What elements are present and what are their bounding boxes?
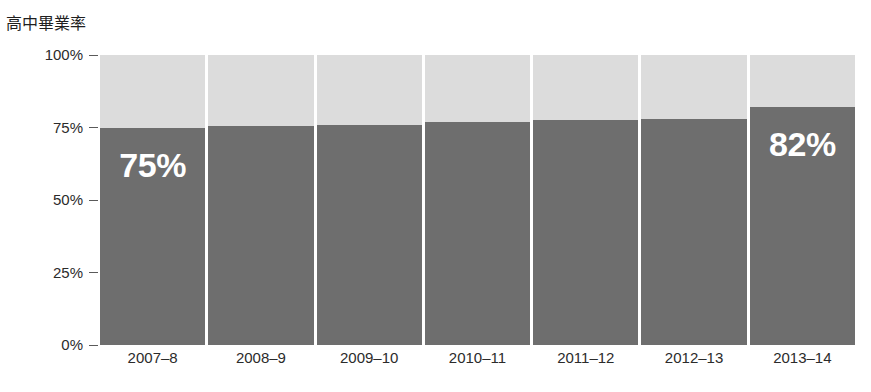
x-axis-tick-label: 2012–13 <box>641 349 746 371</box>
y-axis-tick: 75% <box>0 119 98 137</box>
bar-segment-remainder <box>641 55 746 119</box>
y-axis-tick-mark <box>89 272 98 273</box>
y-axis-tick-label: 25% <box>53 264 83 281</box>
bar-segment-graduated <box>533 120 638 345</box>
bar-segment-remainder <box>425 55 530 122</box>
bar-segment-remainder <box>750 55 855 107</box>
bar-column[interactable] <box>425 55 530 345</box>
bar-segment-remainder <box>208 55 313 126</box>
bar-segment-graduated <box>208 126 313 345</box>
bar-column[interactable] <box>641 55 746 345</box>
y-axis-tick: 0% <box>0 336 98 354</box>
bar-column[interactable]: 75% <box>100 55 205 345</box>
y-axis-tick-label: 0% <box>61 336 83 353</box>
y-axis-tick-label: 50% <box>53 191 83 208</box>
y-axis-title: 高中畢業率 <box>6 14 86 34</box>
bar-column[interactable] <box>208 55 313 345</box>
bar-column[interactable] <box>533 55 638 345</box>
cropped-text-remnant: · · · · · · · · · · <box>90 0 750 5</box>
x-axis-tick-label: 2011–12 <box>533 349 638 371</box>
chart-figure: · · · · · · · · · · 高中畢業率 75%82% 0%25%50… <box>0 0 871 392</box>
y-axis-tick: 50% <box>0 191 98 209</box>
y-axis-tick-mark <box>89 55 98 56</box>
x-axis-tick-label: 2008–9 <box>208 349 313 371</box>
bar-segment-remainder <box>317 55 422 125</box>
y-axis-tick-mark <box>89 200 98 201</box>
bar-segment-remainder <box>100 55 205 128</box>
bar-value-label: 82% <box>750 125 855 164</box>
bar-column[interactable]: 82% <box>750 55 855 345</box>
y-axis-tick-mark <box>89 345 98 346</box>
bar-segment-graduated <box>641 119 746 345</box>
x-axis-tick-label: 2009–10 <box>317 349 422 371</box>
x-axis-tick-label: 2010–11 <box>425 349 530 371</box>
x-axis-tick-label: 2007–8 <box>100 349 205 371</box>
y-axis-tick: 100% <box>0 46 98 64</box>
plot-area: 75%82% <box>100 55 855 345</box>
bar-segment-remainder <box>533 55 638 120</box>
y-axis-tick-label: 100% <box>45 46 83 63</box>
bar-segment-graduated <box>425 122 530 345</box>
bar-column[interactable] <box>317 55 422 345</box>
y-axis-tick-label: 75% <box>53 119 83 136</box>
bar-segment-graduated <box>317 125 422 345</box>
y-axis-tick-mark <box>89 127 98 128</box>
bar-value-label: 75% <box>100 146 205 185</box>
x-axis-tick-label: 2013–14 <box>750 349 855 371</box>
y-axis-tick: 25% <box>0 264 98 282</box>
